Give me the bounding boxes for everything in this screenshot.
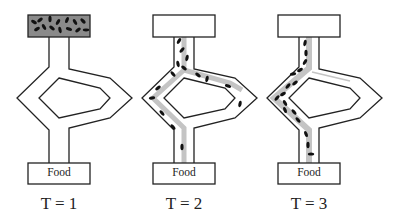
time-label-t1: T = 1 bbox=[19, 194, 99, 214]
ants-on-paths bbox=[149, 37, 243, 150]
maze-paths bbox=[267, 37, 382, 163]
diagram-canvas bbox=[0, 0, 401, 223]
time-label-t3: T = 3 bbox=[269, 194, 349, 214]
nest-box-full bbox=[28, 15, 90, 37]
nest-box-empty bbox=[278, 15, 340, 37]
food-label-t1: Food bbox=[28, 166, 90, 178]
food-label-t3: Food bbox=[278, 166, 340, 178]
time-label-t2: T = 2 bbox=[144, 194, 224, 214]
food-label-t2: Food bbox=[153, 166, 215, 178]
panel-t3 bbox=[267, 15, 382, 184]
pheromone-trail-left bbox=[153, 37, 184, 163]
maze-paths bbox=[17, 37, 132, 163]
panel-t2 bbox=[142, 15, 257, 184]
panel-t1 bbox=[17, 15, 132, 184]
maze-paths bbox=[142, 37, 257, 163]
nest-box-empty bbox=[153, 15, 215, 37]
